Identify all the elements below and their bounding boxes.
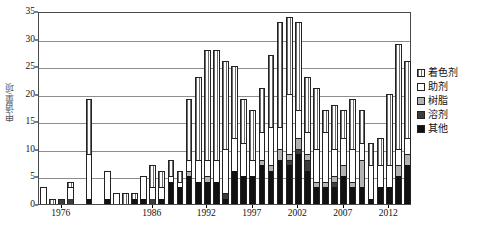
bar-segment-colorant: [404, 61, 411, 138]
bar-2004[interactable]: [313, 88, 320, 204]
bar-2003[interactable]: [304, 77, 311, 204]
bar-1996[interactable]: [240, 99, 247, 204]
bar-1987[interactable]: [158, 171, 165, 204]
bar-segment-colorant: [231, 66, 238, 138]
bar-segment-auxiliary: [249, 160, 256, 177]
bar-segment-other: [204, 182, 211, 204]
legend-item-4[interactable]: 溶剂: [417, 108, 481, 121]
bar-segment-resin: [395, 165, 402, 176]
bar-segment-colorant: [322, 110, 329, 132]
y-axis-tick-mark: [35, 94, 38, 95]
bar-segment-colorant: [249, 110, 256, 160]
legend-swatch-icon: [417, 97, 425, 105]
x-axis-tick-label: 2002: [288, 209, 307, 219]
bar-1984[interactable]: [131, 193, 138, 204]
bar-1998[interactable]: [259, 88, 266, 204]
bar-segment-auxiliary: [340, 138, 347, 166]
bar-segment-auxiliary: [195, 160, 202, 182]
bar-segment-colorant: [349, 99, 356, 149]
x-axis-tick-label: 2012: [379, 209, 398, 219]
bar-1977[interactable]: [67, 182, 74, 204]
bar-1975[interactable]: [49, 199, 56, 205]
bar-1979[interactable]: [86, 99, 93, 204]
bar-segment-colorant: [340, 110, 347, 138]
bar-1995[interactable]: [231, 66, 238, 204]
legend-item-5[interactable]: 其他: [417, 122, 481, 135]
bar-segment-resin: [404, 154, 411, 165]
legend-item-label: 着色剂: [428, 68, 458, 78]
bar-1994[interactable]: [222, 61, 229, 204]
bar-segment-other: [222, 199, 229, 205]
bar-segment-other: [295, 154, 302, 204]
bar-1974[interactable]: [40, 187, 47, 204]
bar-segment-auxiliary: [277, 127, 284, 149]
bar-segment-auxiliary: [286, 94, 293, 155]
bar-segment-auxiliary: [86, 154, 93, 198]
bar-1988[interactable]: [168, 160, 175, 204]
legend-swatch-icon: [417, 111, 425, 119]
legend-item-2[interactable]: 助剂: [417, 80, 481, 93]
bar-2010[interactable]: [368, 143, 375, 204]
bar-2012[interactable]: [386, 94, 393, 204]
bar-segment-solvent: [149, 199, 156, 205]
bar-2006[interactable]: [331, 105, 338, 204]
y-axis-tick-mark: [35, 177, 38, 178]
bar-segment-other: [131, 199, 138, 205]
bar-segment-colorant: [168, 160, 175, 177]
bar-segment-auxiliary: [322, 132, 329, 182]
bar-1999[interactable]: [268, 55, 275, 204]
bar-segment-auxiliary: [40, 187, 47, 204]
legend-swatch-icon: [417, 83, 425, 91]
bar-segment-auxiliary: [140, 176, 147, 198]
bar-segment-colorant: [49, 199, 56, 205]
bar-2013[interactable]: [395, 44, 402, 204]
bar-segment-auxiliary: [67, 187, 74, 198]
legend-item-3[interactable]: 树脂: [417, 94, 481, 107]
bar-segment-other: [177, 187, 184, 204]
bar-1976[interactable]: [58, 199, 65, 205]
bar-1982[interactable]: [113, 193, 120, 204]
bar-segment-colorant: [222, 61, 229, 149]
bar-segment-other: [359, 187, 366, 204]
bar-segment-auxiliary: [377, 165, 384, 187]
bar-segment-auxiliary: [395, 149, 402, 166]
bar-1989[interactable]: [177, 171, 184, 204]
bar-2002[interactable]: [295, 22, 302, 204]
bar-2011[interactable]: [377, 138, 384, 204]
bar-2009[interactable]: [359, 110, 366, 204]
bar-1986[interactable]: [149, 165, 156, 204]
x-axis-tick-label: 1976: [51, 209, 70, 219]
bar-segment-other: [368, 199, 375, 205]
bar-segment-colorant: [368, 143, 375, 165]
bar-2001[interactable]: [286, 17, 293, 204]
bar-2005[interactable]: [322, 110, 329, 204]
bar-segment-other: [104, 199, 111, 205]
bar-segment-colorant: [86, 99, 93, 154]
legend-item-1[interactable]: 着色剂: [417, 66, 481, 79]
bar-1983[interactable]: [122, 193, 129, 204]
bar-2008[interactable]: [349, 99, 356, 204]
bar-1990[interactable]: [186, 99, 193, 204]
bar-segment-colorant: [259, 88, 266, 132]
bar-1992[interactable]: [204, 50, 211, 204]
bar-1981[interactable]: [104, 165, 111, 204]
legend-item-label: 树脂: [428, 96, 448, 106]
bar-2014[interactable]: [404, 61, 411, 204]
bar-segment-auxiliary: [295, 110, 302, 138]
bar-segment-colorant: [186, 99, 193, 160]
y-axis-tick-mark: [35, 39, 38, 40]
bar-1985[interactable]: [140, 176, 147, 204]
bar-1993[interactable]: [213, 50, 220, 204]
bar-segment-colorant: [177, 171, 184, 182]
bar-segment-auxiliary: [404, 138, 411, 155]
bar-segment-colorant: [377, 138, 384, 166]
bar-segment-colorant: [240, 99, 247, 143]
bar-segment-other: [259, 165, 266, 204]
x-axis-tick-label: 1992: [197, 209, 216, 219]
bar-2007[interactable]: [340, 110, 347, 204]
bar-2000[interactable]: [277, 22, 284, 204]
bar-segment-colorant: [295, 22, 302, 110]
bar-1997[interactable]: [249, 110, 256, 204]
bar-1991[interactable]: [195, 77, 202, 204]
bar-segment-other: [340, 176, 347, 204]
